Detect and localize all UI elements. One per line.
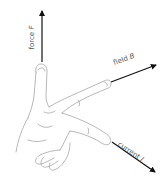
- force-symbol: F: [28, 26, 36, 30]
- hand-rule-diagram: force F field B current I: [0, 0, 163, 190]
- force-label: force F: [29, 26, 36, 50]
- hand-outline: [16, 64, 111, 170]
- field-arrow: [111, 65, 156, 82]
- force-label-text: force: [28, 32, 36, 50]
